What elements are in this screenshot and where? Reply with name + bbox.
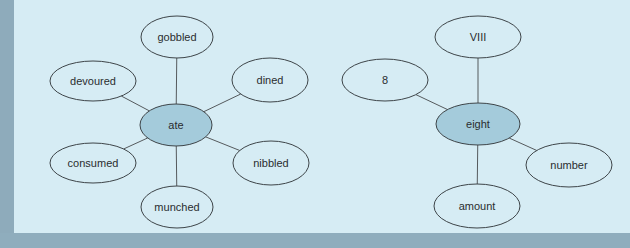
- node-8-label: 8: [382, 74, 388, 86]
- node-amount-label: amount: [459, 200, 496, 212]
- node-munched-label: munched: [154, 201, 199, 213]
- node-consumed-label: consumed: [68, 157, 119, 169]
- node-dined-label: dined: [257, 74, 284, 86]
- node-dined: dined: [232, 58, 308, 102]
- center-node-ate: ate: [140, 104, 212, 146]
- node-munched: munched: [141, 186, 213, 228]
- edge-eight-number: [509, 138, 537, 150]
- edge-ate-devoured: [121, 96, 149, 111]
- node-8: 8: [342, 59, 428, 101]
- edge-ate-gobbled: [176, 58, 177, 104]
- node-devoured: devoured: [50, 61, 136, 101]
- edge-ate-consumed: [124, 138, 148, 149]
- center-node-eight: eight: [436, 103, 520, 145]
- word-web-diagrams: gobbleddevoureddinedconsumednibbledmunch…: [0, 0, 630, 248]
- node-amount: amount: [434, 184, 520, 228]
- node-devoured-label: devoured: [70, 75, 116, 87]
- center-node-ate-label: ate: [168, 119, 183, 131]
- node-nibbled: nibbled: [233, 141, 309, 185]
- edge-ate-nibbled: [206, 137, 240, 151]
- node-viii: VIII: [435, 16, 521, 58]
- center-node-eight-label: eight: [466, 118, 490, 130]
- edge-eight-8: [416, 95, 448, 110]
- node-nibbled-label: nibbled: [253, 157, 288, 169]
- node-gobbled-label: gobbled: [157, 31, 196, 43]
- node-gobbled: gobbled: [141, 16, 213, 58]
- edge-ate-dined: [204, 94, 241, 112]
- node-number-label: number: [550, 159, 588, 171]
- node-consumed: consumed: [50, 143, 136, 183]
- node-number: number: [526, 143, 612, 187]
- node-viii-label: VIII: [470, 31, 487, 43]
